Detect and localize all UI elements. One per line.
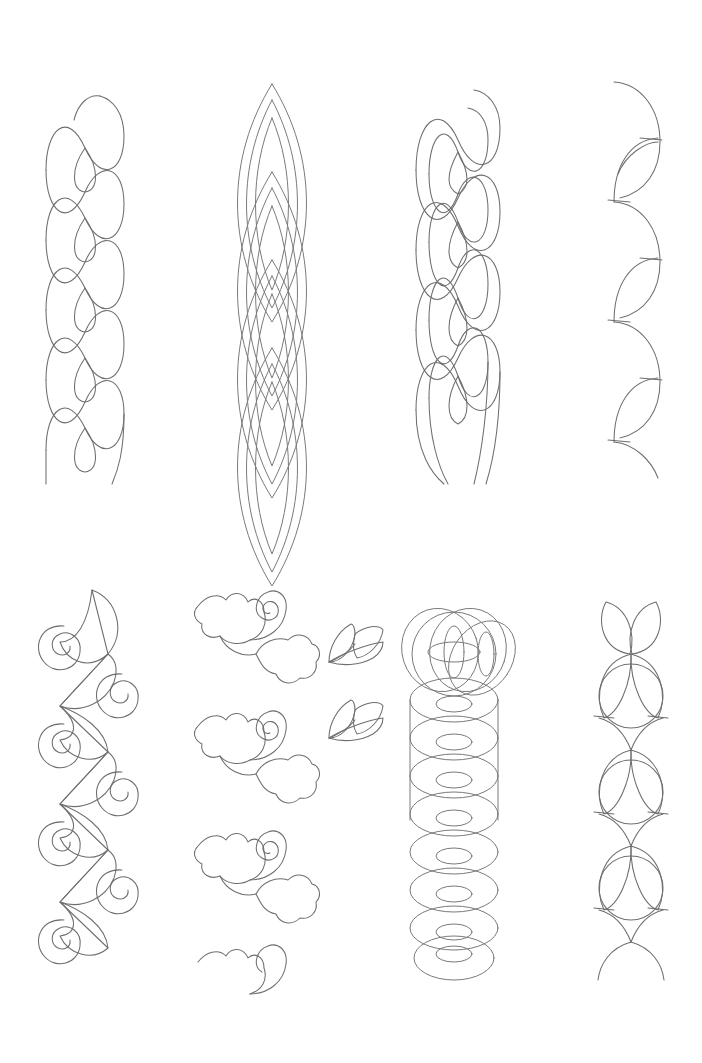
pattern-spiral-and-leaf-vine: Spiral And Leaf Vine [30,586,142,978]
vesica-unit-1 [238,84,307,322]
pattern-rosette-and-lens-stack: Rosette And Lens Stack [406,592,522,984]
vine-spine [60,590,108,948]
pattern-double-cable-with-inner-oval: Double Cable With Inner Oval [410,70,506,490]
vine-spirals [38,626,138,964]
scallop-left-arcs [614,138,658,442]
lens-stack [410,678,498,980]
rose-unit-4 [198,945,286,994]
braid-strand-right-top [74,96,100,120]
sprig-motif-2 [329,700,383,741]
pattern-sheet: Quilting Border Pattern Sheet Two-Strand… [0,0,702,1063]
braid-repeat-2 [46,310,124,380]
rose-unit-3 [195,831,320,923]
pattern-rose-and-tulip-vine: Rose And Tulip Vine [192,590,322,982]
vesica-unit-4 [238,348,307,586]
rose-unit-2 [195,711,320,803]
rosette-head [391,598,529,708]
sprig-motif-1 [329,624,383,665]
pattern-two-strand-cable-braid: Two-Strand Cable Braid [38,70,132,490]
pattern-nested-vesica-chain: Nested Vesica Chain [222,72,322,492]
petal-pair-bottom [598,942,664,980]
braid-inner-lens-set [75,148,96,472]
circle-lens-unit-1 [594,654,668,750]
braid-repeat-1 [46,240,124,310]
pattern-alternating-arc-scallop: Alternating Arc Scallop [606,78,666,480]
pattern-three-leaf-sprig-motifs: Three-Leaf Sprig Motifs [325,622,389,754]
page-title: Quilting Border Pattern Sheet [0,21,1,22]
braid-repeat-3 [46,380,124,450]
braid-tail [46,414,124,484]
circle-lens-unit-3 [594,846,668,942]
pattern-petal-and-circle-chain: Petal And Circle Chain [592,592,672,984]
vesica-unit-3 [238,260,307,498]
vesica-unit-2 [238,172,307,410]
scallop-right-arcs [614,82,660,478]
circle-lens-unit-2 [594,750,668,846]
rose-unit-1 [195,591,320,683]
petal-pair-top [601,602,660,654]
